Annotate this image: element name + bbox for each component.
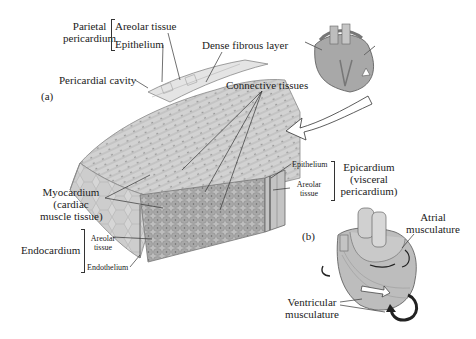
- epicardium-line3: pericardium): [335, 185, 403, 197]
- myocardium-line3: muscle tissue): [40, 210, 102, 222]
- connective-tissues-label: Connective tissues: [226, 79, 308, 91]
- epi-areolar-label: Areolar tissue: [294, 180, 324, 198]
- myocardium-line1: Myocardium: [40, 186, 102, 198]
- epicardium-line1: Epicardium: [335, 161, 403, 173]
- ventricular-line2: musculature: [280, 308, 344, 320]
- dense-fibrous-layer-label: Dense fibrous layer: [202, 39, 288, 51]
- atrial-line2: musculature: [400, 223, 466, 235]
- heart-thumbnail: [305, 24, 375, 92]
- endo-areolar-label: Areolar tissue: [88, 234, 118, 252]
- atrial-line1: Atrial: [400, 211, 466, 223]
- parietal-line1: Parietal: [63, 20, 116, 32]
- ventricular-musculature-label: Ventricular musculature: [280, 296, 344, 320]
- endocardium-brace: [81, 229, 85, 273]
- epicardium-line2: (visceral: [335, 173, 403, 185]
- epithelium-label: Epithelium: [115, 38, 164, 50]
- myocardium-line2: (cardiac: [40, 198, 102, 210]
- epi-areolar-line1: Areolar: [294, 180, 324, 189]
- atrial-musculature-label: Atrial musculature: [400, 211, 466, 235]
- panel-b-marker: (b): [302, 230, 315, 242]
- pericardial-cavity-label: Pericardial cavity: [59, 74, 136, 86]
- epicardium-label: Epicardium (visceral pericardium): [335, 161, 403, 197]
- endothelium-label: Endothelium: [87, 263, 128, 272]
- ventricular-line1: Ventricular: [280, 296, 344, 308]
- parietal-pericardium-label: Parietal pericardium: [63, 20, 116, 44]
- myocardium-label: Myocardium (cardiac muscle tissue): [40, 186, 102, 222]
- panel-a-marker: (a): [41, 90, 53, 102]
- endocardium-label: Endocardium: [21, 244, 80, 256]
- parietal-line2: pericardium: [63, 32, 116, 44]
- areolar-tissue-label: Areolar tissue: [115, 20, 176, 32]
- endo-areolar-line2: tissue: [88, 243, 118, 252]
- epi-areolar-line2: tissue: [294, 189, 324, 198]
- endo-areolar-line1: Areolar: [88, 234, 118, 243]
- epi-epithelium-label: Epithelium: [292, 160, 328, 169]
